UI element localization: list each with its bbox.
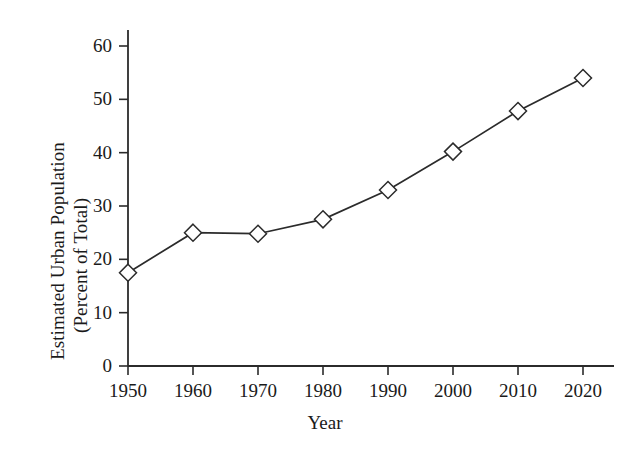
y-tick-label-20: 20 [66,249,112,268]
series-markers [120,70,592,282]
y-tick-label-10: 10 [66,303,112,322]
chart-figure: Estimated Urban Population (Percent of T… [0,0,641,459]
x-tick-label-2020: 2020 [548,381,618,400]
data-point-2010 [510,103,527,120]
y-tick-label-40: 40 [66,143,112,162]
y-tick-label-60: 60 [66,36,112,55]
x-tick-label-2010: 2010 [483,381,553,400]
data-point-1990 [380,182,397,199]
x-tick-label-1980: 1980 [288,381,358,400]
x-tick-label-1960: 1960 [158,381,228,400]
data-point-1980 [315,211,332,228]
y-tick-label-0: 0 [66,356,112,375]
y-tick-label-50: 50 [66,89,112,108]
y-tick-label-30: 30 [66,196,112,215]
data-point-1960 [185,224,202,241]
x-tick-label-1970: 1970 [223,381,293,400]
data-point-2000 [445,143,462,160]
data-point-1950 [120,264,137,281]
data-point-1970 [250,225,267,242]
tick-marks [119,46,583,375]
x-tick-label-1950: 1950 [93,381,163,400]
x-axis-title: Year [285,412,365,434]
x-tick-label-2000: 2000 [418,381,488,400]
x-tick-label-1990: 1990 [353,381,423,400]
data-point-2020 [575,70,592,87]
